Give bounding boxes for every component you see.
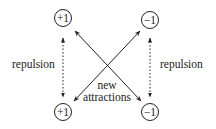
charge-label: +1 xyxy=(57,12,69,24)
charge-label: +1 xyxy=(57,106,69,118)
charge-node-bottom-left: +1 xyxy=(55,104,72,121)
charge-interaction-diagram: +1 −1 +1 −1 repulsion repulsion new attr… xyxy=(0,0,216,129)
new-attractions-label-line2: attractions xyxy=(83,91,131,103)
left-repulsion-label: repulsion xyxy=(12,58,55,71)
right-repulsion-label: repulsion xyxy=(160,58,203,71)
charge-node-bottom-right: −1 xyxy=(142,104,159,121)
charge-node-top-right: −1 xyxy=(142,12,159,29)
new-attractions-label-line1: new xyxy=(97,79,117,91)
charge-node-top-left: +1 xyxy=(55,10,72,27)
charge-label: −1 xyxy=(144,14,156,26)
charge-label: −1 xyxy=(144,106,156,118)
